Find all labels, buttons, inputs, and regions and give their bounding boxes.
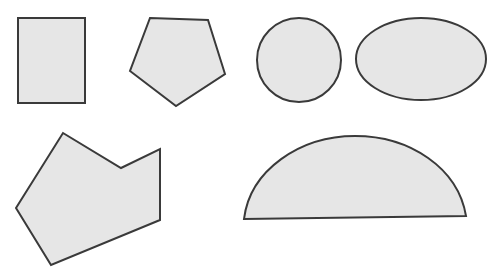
pentagon-shape [130, 18, 225, 106]
shapes-canvas [0, 0, 495, 275]
rectangle-shape [18, 18, 85, 103]
semi-ellipse-shape [244, 136, 466, 219]
irregular-hexagon-shape [16, 133, 160, 265]
circle-shape [257, 18, 341, 102]
ellipse-shape [356, 18, 486, 100]
